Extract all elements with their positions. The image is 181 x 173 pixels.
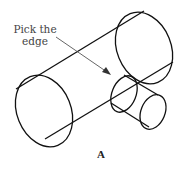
- label-line-1: Pick the: [10, 23, 60, 35]
- branch-cylinder-intersection-edge[interactable]: [106, 72, 142, 116]
- main-cylinder-right-end: [105, 4, 181, 93]
- pick-the-edge-label: Pick the edge: [10, 23, 60, 47]
- main-cylinder-left-end: [5, 67, 83, 156]
- figure-caption: A: [94, 148, 108, 160]
- label-line-2: edge: [10, 35, 60, 47]
- branch-cylinder-end: [135, 91, 171, 133]
- branch-cylinder-top-edge: [124, 75, 158, 95]
- arrowhead-icon: [102, 67, 111, 75]
- leader-arrow: [56, 37, 111, 75]
